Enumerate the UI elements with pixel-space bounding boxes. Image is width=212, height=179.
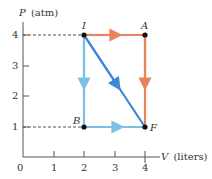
y-axis-symbol: P — [18, 7, 26, 18]
y-tick-label-1: 1 — [12, 121, 18, 132]
point-b-label: B — [72, 115, 80, 126]
y-tick-label-4: 4 — [12, 29, 18, 40]
x-tick-label-3: 3 — [112, 162, 118, 173]
point-b — [81, 124, 86, 129]
x-axis-symbol: V — [161, 151, 170, 162]
point-f-label: F — [149, 122, 158, 133]
path-i-to-f-arrow — [84, 35, 117, 85]
y-tick-label-3: 3 — [12, 60, 18, 71]
point-a-label: A — [140, 20, 148, 31]
point-i — [81, 32, 86, 37]
x-axis-title: V (liters) — [161, 151, 208, 162]
x-origin-label: 0 — [17, 162, 23, 173]
point-i-label: I — [81, 20, 87, 31]
y-axis-unit: (atm) — [31, 7, 58, 18]
point-a — [142, 32, 147, 37]
x-axis-unit: (liters) — [173, 151, 207, 162]
x-tick-label-2: 2 — [81, 162, 87, 173]
y-tick-label-2: 2 — [12, 90, 18, 101]
y-axis-title: P (atm) — [18, 7, 58, 18]
x-tick-label-1: 1 — [51, 162, 57, 173]
point-f — [142, 124, 147, 129]
x-tick-label-4: 4 — [142, 162, 148, 173]
pv-diagram: I A B F P (atm) 4 3 2 1 0 1 2 3 4 V (lit… — [0, 0, 212, 179]
